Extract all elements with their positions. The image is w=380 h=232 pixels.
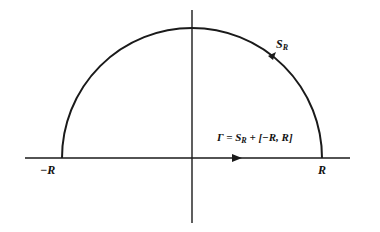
contour-diagram: −R R SR Γ = SR + [−R, R] [0, 0, 380, 232]
label-gamma: Γ = SR + [−R, R] [217, 131, 293, 147]
pos-r-text: R [318, 163, 326, 177]
label-sr: SR [276, 38, 288, 54]
diagram-svg [0, 0, 380, 232]
label-neg-r: −R [40, 164, 55, 176]
gamma-rest-text: + [−R, R] [247, 131, 293, 143]
label-pos-r: R [318, 164, 326, 176]
sr-text: S [276, 37, 283, 51]
sr-subscript: R [283, 43, 288, 52]
axis-arrow-icon [232, 154, 242, 162]
neg-r-text: −R [40, 163, 55, 177]
gamma-text: Γ = S [217, 131, 241, 143]
